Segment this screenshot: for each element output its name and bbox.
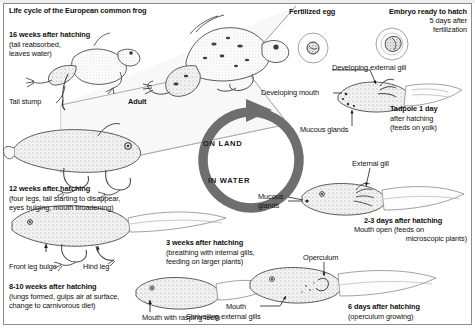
label-tadpole-1-day-heading: Tadpole 1 day (390, 105, 437, 114)
label-hind-leg: Hind leg (83, 263, 109, 272)
label-3-weeks-detail-2: feeding on larger plants) (166, 258, 243, 267)
label-fertilized-egg: Fertilized egg (289, 8, 335, 17)
label-12-weeks-detail-2: eyes bulging, mouth broadening) (9, 204, 114, 213)
label-front-leg-bulge: Front leg bulge (9, 263, 57, 272)
label-3-weeks-heading: 3 weeks after hatching (166, 239, 243, 248)
label-external-gill-2-3-days: External gill (352, 160, 389, 169)
label-16-weeks-heading: 16 weeks after hatching (9, 31, 90, 40)
label-on-land: ON LAND (203, 139, 243, 148)
label-mouth-6-days: Mouth (226, 303, 246, 312)
label-shrivelling-external-gills: Shrivelling external gills (186, 313, 261, 322)
label-6-days-detail: (operculum growing) (348, 313, 413, 322)
figure-title: Life cycle of the European common frog (9, 7, 146, 16)
label-embryo-heading-3: fertilization (340, 26, 467, 35)
tadpole-2-3-days-drawing (288, 168, 464, 215)
label-tail-stump: Tail stump (9, 98, 41, 107)
label-6-days-heading: 6 days after hatching (348, 303, 420, 312)
label-2-3-days-detail-2: microscopic plants) (340, 235, 467, 244)
label-mucous-glands-2-3-days-2: glands (258, 202, 279, 211)
label-16-weeks-detail-2: leaves water) (9, 50, 52, 59)
frog-life-cycle-figure: Life cycle of the European common frog 1… (0, 0, 475, 328)
label-8-10-weeks-detail-2: change to carnivorous diet) (9, 302, 95, 311)
label-in-water: IN WATER (208, 176, 250, 185)
label-8-10-weeks-heading: 8-10 weeks after hatching (9, 283, 96, 292)
label-developing-mouth: Developing mouth (261, 89, 319, 98)
label-developing-external-gill: Developing external gill (332, 64, 406, 73)
label-operculum: Operculum (303, 254, 338, 263)
label-12-weeks-heading: 12 weeks after hatching (9, 185, 90, 194)
label-adult: Adult (128, 98, 146, 107)
fertilized-egg-drawing (298, 33, 328, 63)
label-mucous-glands-1day: Mucous glands (300, 126, 348, 135)
label-tadpole-1-day-detail-2: (feeds on yolk) (390, 124, 437, 133)
tadpole-6-days-drawing (250, 262, 436, 306)
figure-artwork (0, 0, 475, 328)
